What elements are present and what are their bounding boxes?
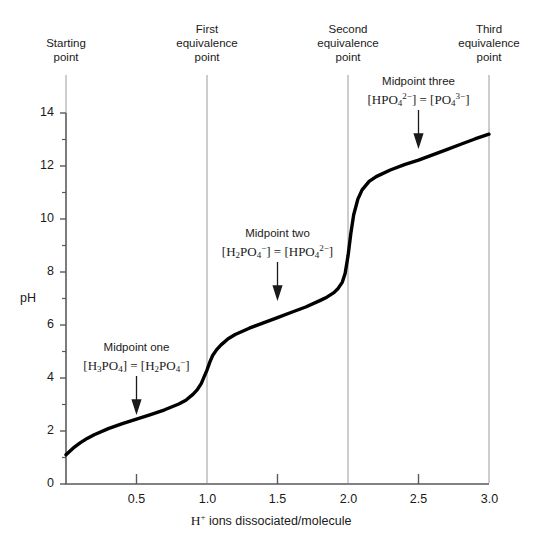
x-axis-title: H+ ions dissociated/molecule (0, 512, 542, 529)
midpoint-one-formula: [H3PO4] = [H2PO4−] (47, 355, 227, 377)
x-tick-label-2-5: 2.5 (398, 492, 439, 506)
y-tick-label-0: 0 (36, 476, 54, 490)
label-starting-point: Starting point (16, 36, 116, 64)
midpoint-two-title: Midpoint two (188, 226, 368, 241)
label-second-equivalence-point: Second equivalence point (298, 22, 398, 64)
annotation-midpoint-three: Midpoint three [HPO42−] = [PO43−] (329, 74, 509, 111)
x-tick-label-1-0: 1.0 (187, 492, 228, 506)
y-axis-title: pH (20, 291, 36, 305)
y-tick-label-6: 6 (36, 317, 54, 331)
x-axis-title-text: ions dissociated/molecule (205, 514, 351, 528)
x-tick-label-0-5: 0.5 (116, 492, 157, 506)
y-tick-label-2: 2 (36, 423, 54, 437)
x-axis-title-ion: H+ (191, 513, 206, 528)
x-tick-label-2-0: 2.0 (328, 492, 369, 506)
x-tick-label-3-0: 3.0 (469, 492, 510, 506)
y-tick-label-10: 10 (36, 211, 54, 225)
midpoint-three-formula: [HPO42−] = [PO43−] (329, 89, 509, 111)
titration-curve-figure: Starting point First equivalence point S… (0, 0, 542, 545)
midpoint-two-formula: [H2PO4−] = [HPO42−] (188, 241, 368, 263)
y-tick-label-14: 14 (36, 105, 54, 119)
midpoint-one-title: Midpoint one (47, 340, 227, 355)
label-first-equivalence-point: First equivalence point (157, 22, 257, 64)
annotation-midpoint-two: Midpoint two [H2PO4−] = [HPO42−] (188, 226, 368, 263)
x-tick-label-1-5: 1.5 (257, 492, 298, 506)
midpoint-three-title: Midpoint three (329, 74, 509, 89)
y-tick-label-8: 8 (36, 264, 54, 278)
label-third-equivalence-point: Third equivalence point (439, 22, 539, 64)
y-tick-label-4: 4 (36, 370, 54, 384)
annotation-midpoint-one: Midpoint one [H3PO4] = [H2PO4−] (47, 340, 227, 377)
y-tick-label-12: 12 (36, 158, 54, 172)
